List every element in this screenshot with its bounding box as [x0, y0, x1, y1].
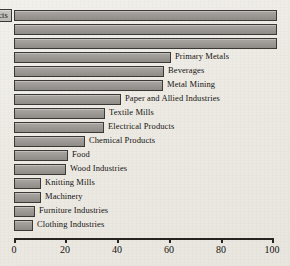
- bar: [14, 122, 104, 133]
- bar: [14, 52, 171, 63]
- bar-label: Knitting Mills: [41, 176, 95, 189]
- x-axis-tick-label: 0: [12, 243, 17, 257]
- x-axis-tick-label: 20: [60, 243, 70, 257]
- bar-label: Chemical Products: [85, 134, 155, 147]
- bar-label: Tobacco Products: [0, 9, 12, 22]
- bar: [14, 192, 41, 203]
- bar-label: Clothing Industries: [33, 218, 104, 231]
- plot-area: Tobacco Products Petroleum and Coal Prod…: [14, 8, 277, 238]
- bar: [14, 108, 105, 119]
- bar: [14, 66, 164, 77]
- bar: [14, 164, 66, 175]
- bar: [14, 220, 33, 231]
- bar: [14, 94, 121, 105]
- bar: [14, 206, 35, 217]
- bar: [14, 136, 85, 147]
- bar: [14, 178, 41, 189]
- x-axis-tick-label: 40: [112, 243, 122, 257]
- bar-label: Textile Mills: [105, 106, 154, 119]
- x-axis-tick-label: 60: [164, 243, 174, 257]
- bar-label: Paper and Allied Industries: [121, 92, 220, 105]
- bar: [14, 24, 277, 35]
- bar-label: Furniture Industries: [35, 204, 108, 217]
- x-axis-tick-label: 100: [265, 243, 280, 257]
- bar-label: Primary Metals: [171, 50, 229, 63]
- bar-chart: Tobacco Products Petroleum and Coal Prod…: [0, 0, 290, 266]
- bar-label: Metal Mining: [163, 78, 215, 91]
- bar-label: Food: [68, 148, 90, 161]
- bar-label: Beverages: [164, 64, 204, 77]
- bar: [14, 38, 277, 49]
- bar-label: Machinery: [41, 190, 83, 203]
- bar: [14, 150, 68, 161]
- bar: [14, 80, 163, 91]
- bar-label: Wood Industries: [66, 162, 127, 175]
- bar: [14, 10, 277, 21]
- x-axis-tick-label: 80: [216, 243, 226, 257]
- bar-label: Electrical Products: [104, 120, 174, 133]
- x-axis-line: [14, 238, 273, 240]
